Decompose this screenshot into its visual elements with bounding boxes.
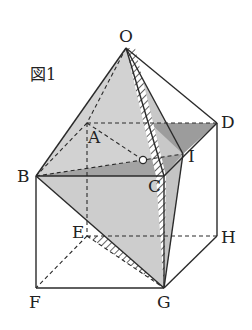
figure-title: 図1 — [30, 65, 56, 84]
label-a: A — [87, 127, 101, 147]
label-h: H — [221, 227, 236, 247]
label-o: O — [119, 26, 133, 46]
label-g: G — [157, 292, 171, 312]
label-f: F — [29, 292, 41, 312]
label-i: I — [188, 146, 195, 166]
geometry-figure: 図1 O A B C D I E H F G — [0, 0, 252, 330]
point-marker — [139, 156, 146, 163]
label-c: C — [148, 176, 161, 196]
label-d: D — [221, 112, 235, 132]
label-e: E — [72, 222, 84, 242]
label-b: B — [17, 166, 30, 186]
